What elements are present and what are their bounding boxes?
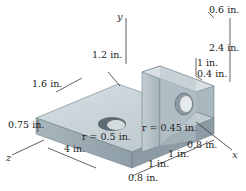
dim-seg-2: 1 in. (148, 158, 169, 169)
dim-plate-thickness: 0.75 in. (8, 119, 44, 130)
z-axis (12, 140, 44, 155)
upright-hole-inner (180, 96, 192, 112)
isometric-diagram: y z x 0.6 in. 2.4 in. 1 in. 0.4 in. 1.2 … (0, 0, 246, 191)
dim-hole-edge: 1.2 in. (92, 49, 122, 60)
upright-front-face (142, 66, 160, 152)
dim-plate-length: 4 in. (64, 143, 85, 154)
dim-plate-depth: 1.6 in. (32, 78, 62, 89)
y-axis-label: y (116, 11, 123, 22)
x-axis-label: x (232, 149, 238, 160)
dim-seg-4: 0.8 in. (187, 139, 217, 150)
dim-hole-height: 1 in. (197, 57, 218, 68)
radius-plate-hole: r = 0.5 in. (82, 131, 131, 142)
dim-hole-offset: 0.4 in. (197, 68, 227, 79)
dim-seg-1: 0.8 in. (128, 172, 158, 183)
dim-upright-height: 2.4 in. (209, 42, 239, 53)
plate-hole-inner (107, 120, 125, 130)
dim-seg-3: 1 in. (168, 148, 189, 159)
dim-top-thickness: 0.6 in. (209, 4, 239, 15)
z-axis-label: z (5, 152, 12, 163)
radius-upright-hole: r = 0.45 in. (142, 122, 197, 133)
